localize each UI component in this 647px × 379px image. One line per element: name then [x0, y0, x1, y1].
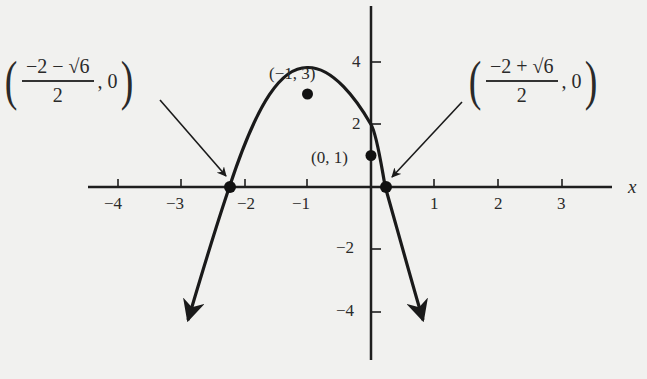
coordinate-tail: , 0 [98, 70, 118, 93]
left-root-point [224, 181, 236, 193]
x-axis-label: x [628, 176, 636, 198]
coordinate-tail: , 0 [562, 70, 582, 93]
x-tick-label: −2 [237, 194, 255, 214]
left-root-label: ( −2 − √6 2 , 0 ) [2, 54, 136, 108]
numerator: −2 − √6 [22, 55, 94, 82]
y-tick-label: −4 [336, 301, 354, 321]
vertex-label: (−1, 3) [269, 64, 315, 84]
y-intercept-label: (0, 1) [311, 148, 348, 168]
right-root-point [380, 181, 392, 193]
right-root-leader-arrow [392, 102, 462, 177]
x-tick-label: −1 [292, 194, 310, 214]
denominator: 2 [53, 82, 63, 107]
x-tick-label: 3 [557, 194, 566, 214]
y-tick-label: 4 [352, 52, 361, 72]
x-tick-label: −4 [104, 194, 122, 214]
vertex-point [302, 89, 313, 100]
right-root-label: ( −2 + √6 2 , 0 ) [466, 54, 600, 108]
x-tick-label: −3 [166, 194, 184, 214]
left-root-leader-arrow [160, 100, 226, 176]
open-paren: ( [5, 54, 18, 108]
denominator: 2 [517, 82, 527, 107]
y-intercept-point [366, 150, 377, 161]
parabola-curve [229, 67, 423, 320]
parabola-curve-left [188, 187, 229, 320]
x-tick-label: 2 [494, 194, 503, 214]
fraction: −2 + √6 2 [486, 55, 558, 107]
y-tick-label: 2 [352, 114, 361, 134]
fraction: −2 − √6 2 [22, 55, 94, 107]
open-paren: ( [469, 54, 482, 108]
close-paren: ) [120, 54, 133, 108]
close-paren: ) [584, 54, 597, 108]
numerator: −2 + √6 [486, 55, 558, 82]
x-tick-label: 1 [430, 194, 439, 214]
y-tick-label: −2 [336, 238, 354, 258]
